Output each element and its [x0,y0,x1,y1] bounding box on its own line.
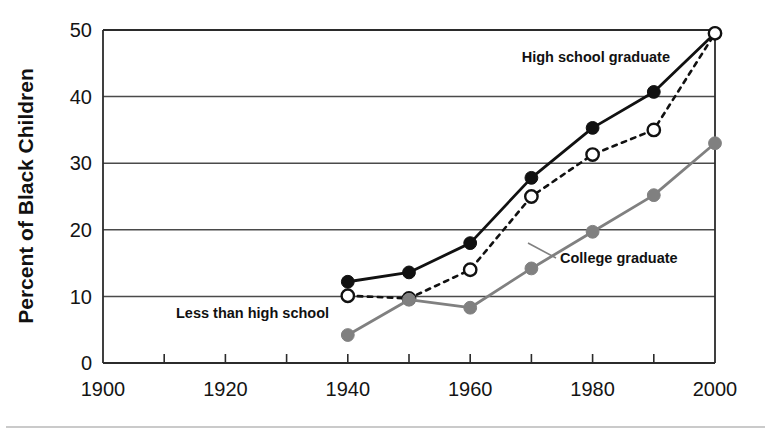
datapoint-high-school-graduate-1940[interactable] [341,275,354,288]
y-tick-label-40: 40 [70,86,92,108]
datapoint-less-than-high-school-1940[interactable] [342,290,354,302]
annotation-high-school-graduate: High school graduate [522,49,670,65]
x-tick-label-2000: 2000 [693,378,738,400]
series-high-school-graduate [341,27,721,288]
y-tick-label-20: 20 [70,219,92,241]
leader-college-graduate [528,243,556,258]
datapoint-college-graduate-1940[interactable] [341,329,354,342]
datapoint-college-graduate-1970[interactable] [525,262,538,275]
x-tick-label-1920: 1920 [203,378,248,400]
x-tick-label-1900: 1900 [81,378,126,400]
y-tick-label-10: 10 [70,286,92,308]
datapoint-college-graduate-1980[interactable] [586,225,599,238]
datapoint-less-than-high-school-2000[interactable] [709,27,721,39]
annotation-college-graduate: College graduate [560,250,678,266]
datapoint-high-school-graduate-1960[interactable] [464,237,477,250]
datapoint-less-than-high-school-1990[interactable] [648,124,660,136]
annotation-leaders [528,243,556,258]
datapoint-less-than-high-school-1980[interactable] [586,148,598,160]
datapoint-high-school-graduate-1950[interactable] [403,266,416,279]
datapoint-high-school-graduate-1990[interactable] [647,86,660,99]
datapoint-college-graduate-1950[interactable] [403,293,416,306]
y-tick-label-50: 50 [70,19,92,41]
datapoint-college-graduate-1990[interactable] [647,189,660,202]
data-series-layer [341,27,721,342]
chart-figure: Percent of Black Children 50 40 30 20 10… [0,0,771,432]
x-tick-label-1940: 1940 [326,378,371,400]
datapoint-less-than-high-school-1960[interactable] [464,264,476,276]
datapoint-less-than-high-school-1970[interactable] [525,190,537,202]
x-tick-label-1980: 1980 [570,378,615,400]
annotation-less-than-high-school: Less than high school [176,305,329,321]
datapoint-college-graduate-1960[interactable] [464,301,477,314]
y-tick-label-0: 0 [81,352,92,374]
datapoint-college-graduate-2000[interactable] [709,137,722,150]
datapoint-high-school-graduate-1970[interactable] [525,171,538,184]
series-college-graduate [341,137,721,342]
datapoint-high-school-graduate-1980[interactable] [586,122,599,135]
y-tick-label-30: 30 [70,152,92,174]
y-tick-labels: 50 40 30 20 10 0 [70,19,92,374]
line-chart-canvas: Percent of Black Children 50 40 30 20 10… [0,0,771,432]
x-tickmarks [164,354,654,363]
series-annotations: High school graduateLess than high schoo… [176,49,678,321]
x-tick-labels: 1900 1920 1940 1960 1980 2000 [81,378,738,400]
y-axis-title: Percent of Black Children [14,68,37,324]
x-tick-label-1960: 1960 [448,378,493,400]
